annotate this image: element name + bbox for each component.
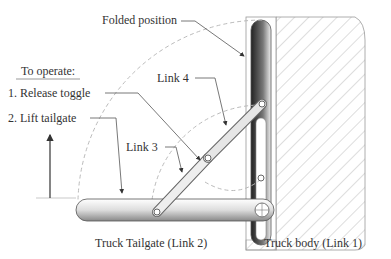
folded-position-label: Folded position [102,13,177,27]
step-2-label: 2. Lift tailgate [8,111,76,125]
tailgate-link-2 [76,199,274,221]
motion-arcs [78,20,262,200]
truck-body-label: Truck body (Link 1) [264,236,362,250]
tailgate-mechanism-diagram [0,0,391,259]
link-4-label: Link 4 [157,71,189,85]
to-operate-heading: To operate: [21,64,75,78]
tailgate-label: Truck Tailgate (Link 2) [95,236,207,250]
link-3-label: Link 3 [126,140,158,154]
step-1-label: 1. Release toggle [8,86,90,100]
